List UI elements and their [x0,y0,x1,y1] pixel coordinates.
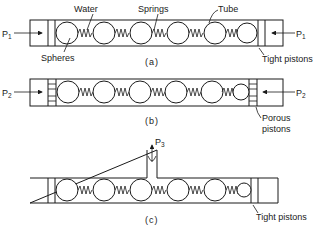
spheres-c [56,179,251,201]
label-tight-pistons-c: Tight pistons [256,212,307,222]
label-springs: Springs [138,4,169,14]
caption-a: (a) [145,57,159,67]
pressure-label-c: P3 [155,137,165,148]
pressure-label-b-left: P2 [2,88,12,99]
panel-c: P3 Tight pistons (c) [30,137,307,225]
spheres-a [56,22,257,44]
label-porous-pistons-line1: Porous [262,113,291,123]
caption-b: (b) [145,116,159,126]
panel-a: P1 P1 Water Springs Tube Spheres Tight p… [2,4,313,67]
label-porous-pistons-line2: pistons [262,124,291,134]
label-spheres: Spheres [41,53,75,63]
spheres-b [57,81,249,103]
spring-sphere-tube-diagram: P1 P1 Water Springs Tube Spheres Tight p… [0,0,313,234]
label-tube: Tube [218,4,238,14]
caption-c: (c) [145,215,159,225]
label-tight-pistons-a: Tight pistons [262,54,313,64]
pressure-label-a-right: P1 [296,29,306,40]
label-water: Water [74,4,98,14]
pressure-label-b-right: P2 [296,88,306,99]
panel-b: P2 P2 Porous pistons (b) [2,79,306,134]
pressure-label-a-left: P1 [2,29,12,40]
